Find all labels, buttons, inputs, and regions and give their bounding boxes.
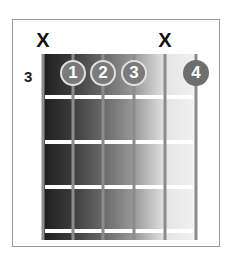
finger-marker-1: 1 xyxy=(60,60,86,86)
finger-marker-3: 3 xyxy=(121,60,147,86)
finger-marker-2: 2 xyxy=(90,60,116,86)
fret-line-4 xyxy=(45,229,193,233)
string-2 xyxy=(164,54,167,240)
muted-string-marker-2: X xyxy=(158,30,171,50)
start-fret-label: 3 xyxy=(24,68,32,85)
string-6 xyxy=(42,54,45,240)
fret-line-2 xyxy=(45,140,193,144)
muted-string-marker-6: X xyxy=(36,30,49,50)
fret-line-1 xyxy=(45,95,193,99)
finger-marker-4: 4 xyxy=(183,60,209,86)
fret-line-3 xyxy=(45,185,193,189)
